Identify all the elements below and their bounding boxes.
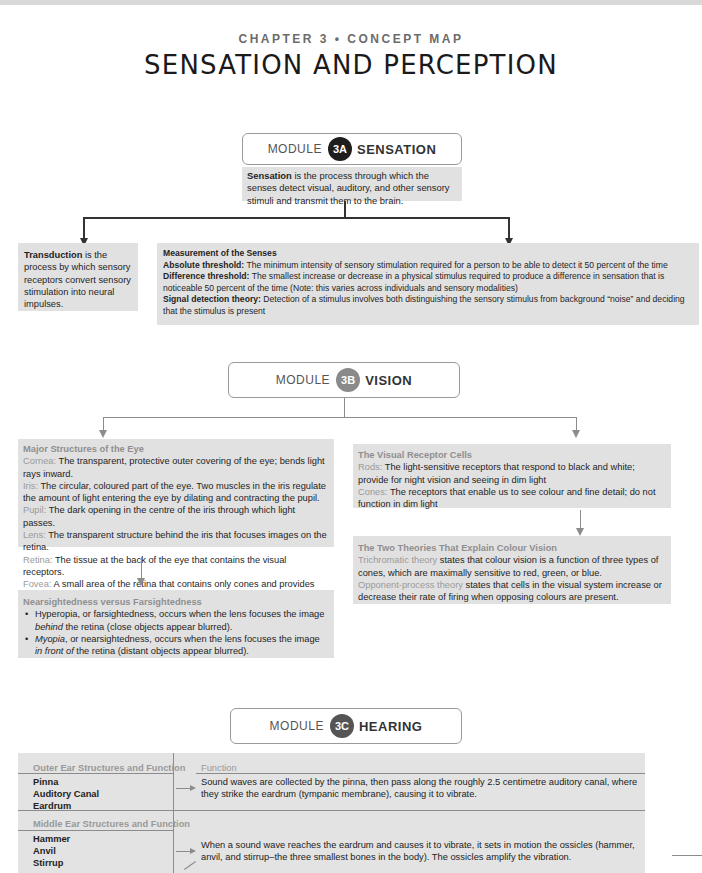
eye-structures-heading: Major Structures of the Eye	[23, 443, 329, 455]
chapter-label: CHAPTER 3 • CONCEPT MAP	[0, 32, 702, 46]
measurement-box: Measurement of the Senses Absolute thres…	[157, 243, 699, 325]
row-separator	[18, 830, 173, 831]
eye-structure-item: Lens: The transparent structure behind t…	[23, 529, 329, 554]
row-separator	[18, 810, 645, 811]
arrow-right-icon	[190, 785, 196, 791]
eye-structure-item: Pupil: The dark opening in the centre of…	[23, 504, 329, 529]
receptor-cells-heading: The Visual Receptor Cells	[358, 449, 666, 461]
connector	[344, 201, 346, 218]
arrow-right-icon	[190, 848, 196, 854]
module-word: MODULE	[276, 373, 330, 387]
connector	[344, 398, 345, 418]
module-name: HEARING	[359, 719, 422, 734]
arrow-down-icon	[572, 430, 580, 438]
bullet-myopia: Myopia, or nearsightedness, occurs when …	[35, 633, 329, 658]
eye-structures-box: Major Structures of the Eye Cornea: The …	[18, 439, 334, 547]
row-separator	[18, 773, 173, 774]
measurement-item: Difference threshold: The smallest incre…	[163, 271, 693, 294]
module-badge-3a: 3A	[328, 137, 352, 161]
eye-structure-item: Retina: The tissue at the back of the ey…	[23, 554, 329, 579]
colour-theories-heading: The Two Theories That Explain Colour Vis…	[358, 542, 666, 554]
measurement-heading: Measurement of the Senses	[163, 248, 277, 258]
row-separator	[196, 773, 645, 774]
eye-structure-item: Iris: The circular, coloured part of the…	[23, 480, 329, 505]
page-title: SENSATION AND PERCEPTION	[0, 50, 702, 80]
definition-term: Sensation	[247, 170, 292, 181]
module-3c-header: MODULE 3C HEARING	[230, 708, 462, 744]
middle-ear-structures: Hammer Anvil Stirrup	[33, 833, 70, 869]
sightedness-heading: Nearsightedness versus Farsightedness	[23, 596, 329, 608]
middle-ear-function: When a sound wave reaches the eardrum an…	[201, 839, 641, 863]
bullet-hyperopia: Hyperopia, or farsightedness, occurs whe…	[35, 608, 329, 633]
transduction-term: Transduction	[24, 250, 82, 260]
sightedness-box: Nearsightedness versus Farsightedness Hy…	[18, 590, 334, 658]
colour-theories-box: The Two Theories That Explain Colour Vis…	[353, 536, 671, 604]
connector	[672, 855, 702, 856]
connector	[83, 217, 509, 219]
arrow-down-icon	[576, 528, 584, 536]
receptor-cells-box: The Visual Receptor Cells Rods: The ligh…	[353, 444, 671, 508]
connector	[103, 417, 576, 418]
arrow-down-icon	[137, 578, 145, 586]
module-name: VISION	[365, 373, 412, 388]
eye-structure-item: Cornea: The transparent, protective oute…	[23, 455, 329, 480]
measurement-item: Absolute threshold: The minimum intensit…	[163, 260, 693, 272]
colour-theory-item: Trichromatic theory states that colour v…	[358, 554, 666, 579]
module-badge-3b: 3B	[336, 368, 360, 392]
module-word: MODULE	[270, 719, 324, 733]
module-word: MODULE	[268, 142, 322, 156]
arrow-down-icon	[99, 430, 107, 438]
module-3b-header: MODULE 3B VISION	[228, 362, 460, 398]
receptor-item: Rods: The light-sensitive receptors that…	[358, 461, 666, 486]
hearing-table: Outer Ear Structures and Function Functi…	[18, 753, 645, 873]
outer-ear-structures: Pinna Auditory Canal Eardrum	[33, 776, 99, 812]
receptor-item: Cones: The receptors that enable us to s…	[358, 486, 666, 511]
colour-theory-item: Opponent-process theory states that cell…	[358, 579, 666, 604]
top-page-edge	[0, 0, 702, 5]
measurement-item: Signal detection theory: Detection of a …	[163, 294, 693, 317]
middle-ear-heading: Middle Ear Structures and Function	[33, 818, 190, 830]
module-name: SENSATION	[357, 142, 436, 157]
sensation-definition: Sensation is the process through which t…	[242, 167, 462, 201]
module-badge-3c: 3C	[330, 714, 354, 738]
module-3a-header: MODULE 3A SENSATION	[242, 133, 462, 165]
connector	[184, 861, 196, 870]
transduction-box: Transduction is the process by which sen…	[18, 243, 138, 311]
outer-ear-function: Sound waves are collected by the pinna, …	[201, 776, 641, 800]
